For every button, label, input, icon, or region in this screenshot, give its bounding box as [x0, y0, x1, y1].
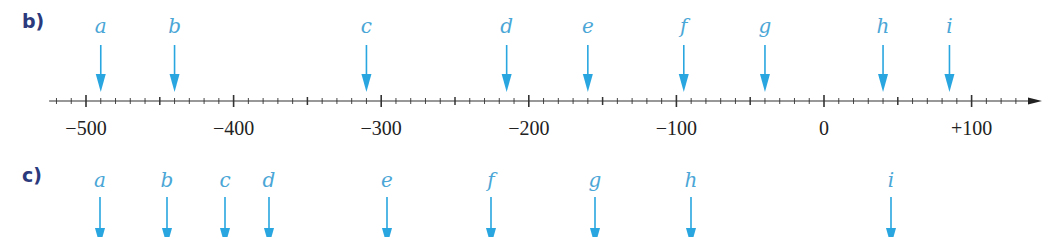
- c-arrow-g-head: [590, 228, 600, 237]
- c-point-letter-c: c: [219, 170, 230, 190]
- point-letter-c: c: [361, 16, 372, 36]
- number-line-exercise: b) c) −500−400−300−200−1000+100abcdefghi…: [0, 0, 1044, 237]
- c-point-letter-b: b: [161, 170, 174, 190]
- arrow-f-head: [679, 74, 689, 92]
- c-arrow-c-head: [220, 228, 230, 237]
- point-letter-i: i: [946, 16, 952, 36]
- tick-label: 0: [819, 118, 829, 138]
- c-arrow-i-head: [886, 228, 896, 237]
- tick-label: −500: [65, 118, 106, 138]
- point-letter-h: h: [877, 16, 890, 36]
- c-arrow-a-head: [95, 228, 105, 237]
- tick-label: +100: [951, 118, 992, 138]
- c-point-letter-e: e: [381, 170, 393, 190]
- arrow-g-head: [760, 74, 770, 92]
- point-letter-b: b: [168, 16, 181, 36]
- axis-arrowhead-icon: [1028, 98, 1042, 105]
- c-point-letter-h: h: [685, 170, 698, 190]
- c-arrow-h-head: [686, 228, 696, 237]
- c-arrow-e-head: [382, 228, 392, 237]
- arrow-h-head: [878, 74, 888, 92]
- point-letter-g: g: [759, 16, 772, 36]
- point-letter-e: e: [582, 16, 594, 36]
- arrow-i-head: [944, 74, 954, 92]
- c-point-letter-f: f: [487, 170, 494, 190]
- arrow-e-head: [583, 74, 593, 92]
- tick-label: −200: [508, 118, 549, 138]
- c-point-letter-i: i: [888, 170, 894, 190]
- point-letter-a: a: [95, 16, 107, 36]
- arrow-b-head: [170, 74, 180, 92]
- c-point-letter-d: d: [263, 170, 276, 190]
- c-point-letter-g: g: [589, 170, 602, 190]
- tick-label: −100: [656, 118, 697, 138]
- c-point-letter-a: a: [94, 170, 106, 190]
- point-letter-f: f: [680, 16, 687, 36]
- point-letter-d: d: [500, 16, 513, 36]
- c-arrow-f-head: [486, 228, 496, 237]
- c-arrow-b-head: [162, 228, 172, 237]
- arrow-d-head: [502, 74, 512, 92]
- arrow-c-head: [361, 74, 371, 92]
- tick-label: −300: [361, 118, 402, 138]
- c-arrow-d-head: [264, 228, 274, 237]
- arrow-a-head: [96, 74, 106, 92]
- tick-label: −400: [213, 118, 254, 138]
